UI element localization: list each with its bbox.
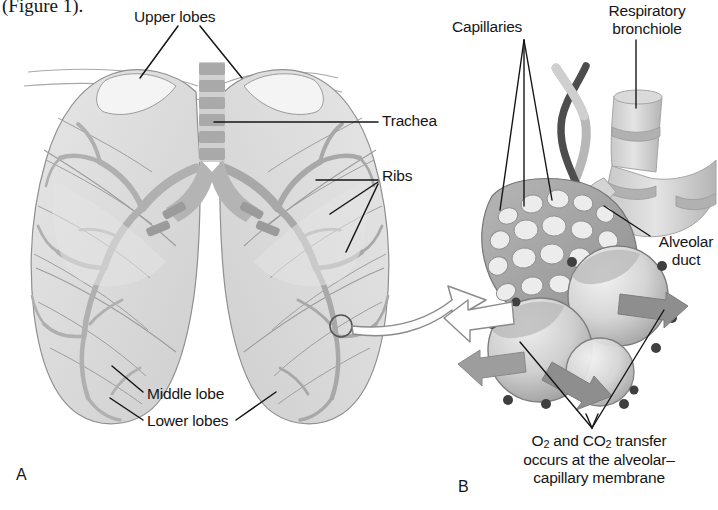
panel-a-illustration <box>24 26 389 424</box>
alveolar-duct-line2: duct <box>672 251 701 268</box>
label-ribs: Ribs <box>382 167 412 185</box>
resp-bronchiole-line2: bronchiole <box>612 20 682 37</box>
label-lower-lobes: Lower lobes <box>147 412 228 430</box>
caption-gas-transfer: O2 and CO2 transferoccurs at the alveola… <box>487 432 711 488</box>
figure-root: (Figure 1). Upper lobes Trachea Ribs Mid… <box>0 0 718 510</box>
alveolar-duct-line1: Alveolar <box>659 233 713 250</box>
label-alveolar-duct: Alveolarduct <box>654 233 718 270</box>
label-upper-lobes: Upper lobes <box>134 8 215 26</box>
figure-reference-text: (Figure 1). <box>2 0 83 17</box>
transfer-line-2: occurs at the alveolar– <box>523 451 674 468</box>
label-respiratory-bronchiole: Respiratorybronchiole <box>594 2 700 39</box>
transfer-line-3: capillary membrane <box>533 469 665 486</box>
right-lung <box>220 70 389 424</box>
label-middle-lobe: Middle lobe <box>147 385 224 403</box>
transfer-line-1: O2 and CO2 transfer <box>532 432 667 449</box>
panel-b-letter: B <box>458 478 468 497</box>
resp-bronchiole-line1: Respiratory <box>608 2 685 19</box>
label-capillaries: Capillaries <box>452 18 522 36</box>
label-trachea: Trachea <box>382 112 437 130</box>
left-lung <box>31 70 200 424</box>
panel-a-letter: A <box>16 466 26 485</box>
